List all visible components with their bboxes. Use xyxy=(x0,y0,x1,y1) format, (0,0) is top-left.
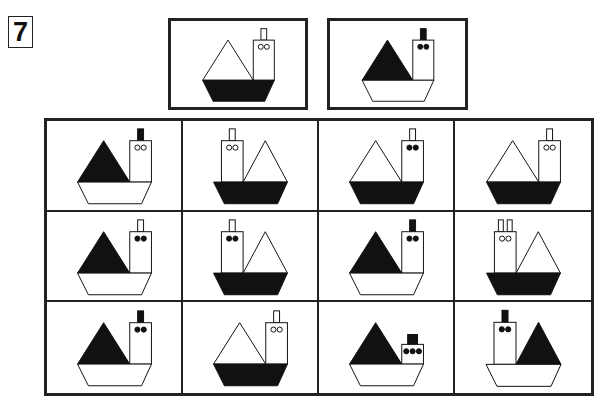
hull-icon xyxy=(214,273,288,295)
porthole-icon xyxy=(550,145,555,150)
hull-icon xyxy=(78,182,152,204)
hull-icon xyxy=(203,80,275,101)
hull-icon xyxy=(350,273,424,295)
chimney-icon xyxy=(410,220,416,232)
porthole-icon xyxy=(227,145,232,150)
reference-boat-a xyxy=(168,18,308,110)
chimney-icon xyxy=(502,311,508,323)
porthole-icon xyxy=(141,327,146,332)
hull-icon xyxy=(350,364,424,386)
grid-cell-r2-c1[interactable] xyxy=(47,212,183,303)
hull-icon xyxy=(486,365,561,387)
chimney-icon xyxy=(547,129,553,141)
sail-icon xyxy=(362,40,413,80)
cabin-icon xyxy=(402,141,424,182)
porthole-icon xyxy=(404,349,409,354)
porthole-icon xyxy=(410,349,415,354)
sail-icon xyxy=(78,231,130,272)
porthole-icon xyxy=(500,236,505,241)
sail-icon xyxy=(243,141,287,182)
hull-icon xyxy=(362,80,434,101)
grid-cell-r3-c4[interactable] xyxy=(455,302,591,393)
grid-cell-r2-c2[interactable] xyxy=(183,212,319,303)
grid-cell-r1-c3[interactable] xyxy=(319,121,455,212)
porthole-icon xyxy=(499,327,504,332)
porthole-icon xyxy=(258,44,263,49)
chimney-icon xyxy=(410,129,416,141)
sail-icon xyxy=(350,231,402,272)
porthole-icon xyxy=(418,44,423,49)
porthole-icon xyxy=(407,236,412,241)
porthole-icon xyxy=(424,44,429,49)
grid-cell-r1-c1[interactable] xyxy=(47,121,183,212)
chimney-icon xyxy=(138,311,144,323)
cabin-icon xyxy=(494,323,516,365)
hull-icon xyxy=(487,273,561,295)
cabin-icon xyxy=(413,40,434,80)
hull-icon xyxy=(214,364,288,386)
sail-icon xyxy=(78,323,130,364)
chimney-icon xyxy=(138,220,144,232)
hull-icon xyxy=(78,273,152,295)
sail-icon xyxy=(487,141,539,182)
porthole-icon xyxy=(264,44,269,49)
sail-icon xyxy=(350,141,402,182)
cabin-icon xyxy=(266,323,288,364)
porthole-icon xyxy=(135,236,140,241)
chimney-icon xyxy=(420,29,426,40)
porthole-icon xyxy=(141,236,146,241)
hull-icon xyxy=(487,182,561,204)
sail-icon xyxy=(350,323,402,364)
grid-cell-r1-c2[interactable] xyxy=(183,121,319,212)
porthole-icon xyxy=(135,327,140,332)
chimney-icon xyxy=(229,129,235,141)
porthole-icon xyxy=(413,145,418,150)
porthole-icon xyxy=(271,327,276,332)
porthole-icon xyxy=(407,145,412,150)
sail-icon xyxy=(203,40,254,80)
chimney-icon xyxy=(229,220,235,232)
reference-boat-b xyxy=(327,18,468,110)
cabin-icon xyxy=(539,141,561,182)
grid-cell-r2-c3[interactable] xyxy=(319,212,455,303)
sail-icon xyxy=(516,323,561,365)
hull-icon xyxy=(78,364,152,386)
chimney-icon xyxy=(261,29,267,40)
grid-cell-r3-c3[interactable] xyxy=(319,302,455,393)
porthole-icon xyxy=(413,236,418,241)
hull-icon xyxy=(214,182,288,204)
cabin-icon xyxy=(221,231,243,272)
cabin-icon xyxy=(494,231,516,272)
chimney-icon xyxy=(507,220,512,232)
porthole-icon xyxy=(506,327,511,332)
cabin-icon xyxy=(130,323,152,364)
cabin-icon xyxy=(130,141,152,182)
chimney-icon xyxy=(498,220,503,232)
porthole-icon xyxy=(135,145,140,150)
cabin-icon xyxy=(221,141,243,182)
porthole-icon xyxy=(277,327,282,332)
porthole-icon xyxy=(141,145,146,150)
porthole-icon xyxy=(233,145,238,150)
porthole-icon xyxy=(227,236,232,241)
cabin-icon xyxy=(253,40,274,80)
sail-icon xyxy=(243,231,287,272)
grid-cell-r1-c4[interactable] xyxy=(455,121,591,212)
grid-cell-r2-c4[interactable] xyxy=(455,212,591,303)
puzzle-number: 7 xyxy=(8,16,33,48)
porthole-icon xyxy=(544,145,549,150)
cabin-icon xyxy=(402,231,424,272)
chimney-icon xyxy=(274,311,280,323)
chimney-icon xyxy=(138,129,144,141)
sail-icon xyxy=(78,141,130,182)
porthole-icon xyxy=(506,236,511,241)
porthole-icon xyxy=(233,236,238,241)
sail-icon xyxy=(214,323,266,364)
grid-cell-r3-c1[interactable] xyxy=(47,302,183,393)
answer-grid xyxy=(44,118,594,396)
porthole-icon xyxy=(416,349,421,354)
grid-cell-r3-c2[interactable] xyxy=(183,302,319,393)
cabin-icon xyxy=(130,231,152,272)
hull-icon xyxy=(350,182,424,204)
sail-icon xyxy=(516,231,560,272)
